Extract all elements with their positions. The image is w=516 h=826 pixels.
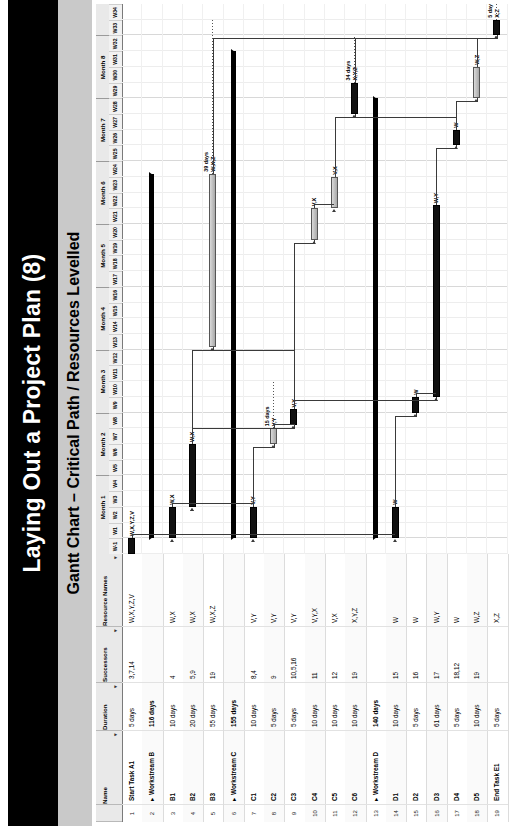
duration-cell: 61 days (427, 683, 447, 731)
resource-names-cell: W (406, 554, 426, 627)
filter-caret-icon[interactable]: ▾ (112, 685, 119, 688)
grid-line (122, 270, 508, 271)
table-row[interactable]: 11C510 days12V,X (325, 554, 346, 822)
dependency-link (294, 401, 295, 410)
table-row[interactable]: 2▸Workstream B116 days (142, 554, 163, 822)
table-row[interactable]: 6▸Workstream C155 days (224, 554, 245, 822)
table-row[interactable]: 19End Task E15 daysX,Z (487, 554, 508, 822)
gantt-bar-critical[interactable] (433, 205, 440, 397)
slack-duration-label: 34 days (345, 61, 351, 81)
filter-caret-icon[interactable]: ▾ (112, 556, 119, 559)
column-header-duration[interactable]: Duration ▾ (96, 683, 122, 731)
task-name-cell[interactable]: C3 (284, 731, 304, 805)
timeline-week-label: W6 (109, 444, 122, 460)
resource-names-cell: W (447, 554, 467, 627)
table-row[interactable]: 1Start Task A15 days3,7,14W,X,Y,Z,V (122, 554, 143, 822)
timeline-week-header: W-1W1W2W3W4W5W6W7W8W9W10W11W12W13W14W15W… (109, 4, 123, 554)
table-row[interactable]: 3B110 days4W,X (163, 554, 184, 822)
duration-cell: 5 days (487, 683, 507, 731)
task-name-cell[interactable]: B1 (163, 731, 183, 805)
grid-line (122, 506, 508, 507)
task-name-cell[interactable]: C5 (325, 731, 345, 805)
task-name-cell[interactable]: C2 (264, 731, 284, 805)
table-row[interactable]: 13▸Workstream D140 days (366, 554, 387, 822)
task-name-cell[interactable]: C4 (305, 731, 325, 805)
dependency-link (213, 39, 214, 173)
dependency-link (172, 504, 173, 507)
dependency-link (436, 149, 437, 205)
table-row[interactable]: 18D510 days19W,Z (467, 554, 488, 822)
gantt-bar-critical[interactable] (189, 444, 196, 507)
expand-collapse-icon[interactable]: ▸ (142, 795, 162, 801)
column-header-successors[interactable]: Successors ▾ (96, 627, 122, 683)
table-row[interactable]: 12C610 days19X,Y,Z (345, 554, 366, 822)
summary-bar[interactable] (149, 174, 154, 539)
grid-line (122, 427, 508, 428)
task-name-cell[interactable]: D5 (467, 731, 487, 805)
filter-caret-icon[interactable]: ▾ (112, 733, 119, 736)
gantt-bar[interactable] (311, 208, 318, 239)
task-name-cell[interactable]: B3 (203, 731, 223, 805)
dependency-link (274, 425, 275, 428)
duration-cell: 5 days (264, 683, 284, 731)
task-name-cell[interactable]: C1 (244, 731, 264, 805)
gantt-bar-critical[interactable] (290, 409, 297, 425)
grid-row-line (446, 4, 447, 554)
row-id-cell: 12 (345, 805, 365, 822)
timeline-month-label: Month 8 (96, 35, 109, 98)
task-name-cell[interactable]: D3 (427, 731, 447, 805)
gantt-bar-critical[interactable] (351, 83, 358, 114)
grid-line (122, 317, 508, 318)
task-name-cell[interactable]: Start Task A1 (122, 731, 142, 805)
summary-bar-cap (231, 49, 235, 55)
gantt-bar-critical[interactable] (453, 130, 460, 146)
expand-collapse-icon[interactable]: ▸ (224, 795, 244, 801)
table-row[interactable]: 15D25 days16W (406, 554, 427, 822)
expand-collapse-icon[interactable]: ▸ (366, 795, 386, 801)
column-header-id[interactable] (96, 805, 122, 822)
table-row[interactable]: 17D45 days18,12W (447, 554, 468, 822)
slack-duration-label: 39 days (203, 152, 209, 172)
dependency-link (274, 424, 294, 425)
filter-caret-icon[interactable]: ▾ (112, 629, 119, 632)
task-name-cell[interactable]: C6 (345, 731, 365, 805)
table-row[interactable]: 9C35 days10,5,16V,Y (284, 554, 305, 822)
task-name-cell[interactable]: ▸Workstream B (142, 731, 162, 805)
slack-line (273, 381, 274, 428)
timeline-week-label: W32 (109, 35, 122, 51)
row-id-cell: 4 (183, 805, 203, 822)
column-header-resource-names[interactable]: Resource Names ▾ (96, 554, 122, 627)
dependency-link (192, 428, 294, 429)
timeline-week-label: W16 (109, 287, 122, 303)
task-name-cell[interactable]: D1 (386, 731, 406, 805)
resource-names-cell: V,X (325, 554, 345, 627)
subtitle-banner: Gantt Chart – Critical Path / Resources … (58, 0, 92, 826)
task-name-cell[interactable]: End Task E1 (487, 731, 507, 805)
gantt-bar[interactable] (270, 428, 277, 444)
table-row[interactable]: 4B220 days5,9W,X (183, 554, 204, 822)
table-row[interactable]: 14D110 days15W (386, 554, 407, 822)
successors-cell: 19 (467, 627, 487, 683)
grid-line (122, 97, 508, 98)
table-row[interactable]: 16D361 days17W,Y (427, 554, 448, 822)
gantt-bar-critical[interactable] (493, 20, 500, 36)
summary-bar[interactable] (373, 98, 378, 538)
row-id-cell: 3 (163, 805, 183, 822)
gantt-bar-critical[interactable] (128, 538, 135, 554)
task-name-cell[interactable]: D2 (406, 731, 426, 805)
column-header-name[interactable]: Name ▾ (96, 731, 122, 805)
screenshot-canvas: Laying Out a Project Plan (8) Gantt Char… (0, 0, 516, 826)
task-name-cell[interactable]: ▸Workstream D (366, 731, 386, 805)
task-name-cell[interactable]: ▸Workstream C (224, 731, 244, 805)
timeline-week-label: W29 (109, 83, 122, 99)
table-row[interactable]: 5B355 days19W,X,Z (203, 554, 224, 822)
table-row[interactable]: 8C25 days9V,Y (264, 554, 285, 822)
gantt-bar[interactable] (209, 174, 216, 347)
task-name-cell[interactable]: D4 (447, 731, 467, 805)
gantt-bar[interactable] (473, 67, 480, 98)
summary-bar[interactable] (231, 51, 236, 538)
table-row[interactable]: 10C410 days11V,Y,X (305, 554, 326, 822)
table-row[interactable]: 7C110 days8,4V,Y (244, 554, 265, 822)
dependency-link (355, 117, 457, 118)
task-name-cell[interactable]: B2 (183, 731, 203, 805)
